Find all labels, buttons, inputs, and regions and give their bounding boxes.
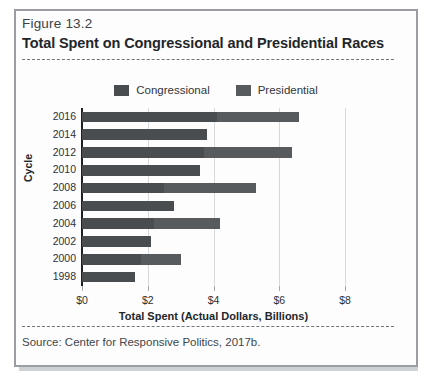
x-axis-tick-label: $4 (208, 294, 220, 306)
bar-row: 2012 (82, 144, 292, 162)
legend-swatch-presidential (236, 85, 251, 96)
x-axis-tick-label: $2 (142, 294, 154, 306)
gridline (214, 108, 215, 286)
y-axis-category-label: 2010 (53, 161, 76, 179)
x-axis-tick (82, 286, 83, 291)
bar-segment-presidential (164, 183, 256, 194)
gridline (345, 108, 346, 286)
legend-entry: Congressional (114, 84, 210, 96)
plot-area: Total Spent (Actual Dollars, Billions) $… (82, 108, 345, 286)
divider-bottom (22, 326, 394, 327)
x-axis-tick-label: $8 (339, 294, 351, 306)
bar-row: 2008 (82, 179, 256, 197)
y-axis-category-label: 2000 (53, 250, 76, 268)
y-axis-category-label: 2002 (53, 233, 76, 251)
legend-label: Presidential (258, 84, 318, 96)
bar-segment-congressional (82, 218, 154, 229)
x-axis-tick-label: $0 (76, 294, 88, 306)
bar-segment-congressional (82, 129, 207, 140)
y-axis-title: Cycle (22, 154, 34, 182)
figure-number: Figure 13.2 (22, 16, 93, 31)
bar-segment-congressional (82, 201, 174, 212)
bar-segment-presidential (141, 254, 180, 265)
legend-entry: Presidential (236, 84, 318, 96)
bar-row: 2014 (82, 126, 207, 144)
figure-source: Source: Center for Responsive Politics, … (22, 336, 260, 348)
legend-swatch-congressional (114, 85, 129, 96)
x-axis-tick (345, 286, 346, 291)
bar-segment-congressional (82, 272, 135, 283)
figure-title: Total Spent on Congressional and Preside… (22, 35, 384, 51)
x-axis-tick-label: $6 (273, 294, 285, 306)
bar-segment-presidential (154, 218, 220, 229)
figure-bottom-shadow (19, 367, 418, 371)
figure-container: Figure 13.2 Total Spent on Congressional… (0, 0, 432, 385)
bar-segment-congressional (82, 183, 164, 194)
y-axis-category-label: 2016 (53, 108, 76, 126)
x-axis-tick (279, 286, 280, 291)
bar-row: 2016 (82, 108, 299, 126)
x-axis-tick (214, 286, 215, 291)
bar-row: 1998 (82, 268, 135, 286)
y-axis-category-label: 2006 (53, 197, 76, 215)
bar-row: 2004 (82, 215, 220, 233)
bar-segment-presidential (217, 112, 299, 123)
chart-legend: CongressionalPresidential (0, 84, 432, 96)
x-axis-title: Total Spent (Actual Dollars, Billions) (82, 310, 345, 322)
bar-segment-congressional (82, 236, 151, 247)
x-axis-tick (148, 286, 149, 291)
divider-top (22, 59, 394, 60)
y-axis-category-label: 1998 (53, 268, 76, 286)
bar-segment-presidential (204, 147, 293, 158)
y-axis-category-label: 2014 (53, 126, 76, 144)
y-axis-category-label: 2004 (53, 215, 76, 233)
y-axis-category-label: 2012 (53, 144, 76, 162)
bar-row: 2010 (82, 161, 200, 179)
bar-row: 2006 (82, 197, 174, 215)
y-axis-category-label: 2008 (53, 179, 76, 197)
legend-label: Congressional (136, 84, 210, 96)
bar-row: 2002 (82, 233, 151, 251)
gridline (279, 108, 280, 286)
bar-row: 2000 (82, 250, 181, 268)
bar-segment-congressional (82, 165, 200, 176)
bar-segment-congressional (82, 254, 141, 265)
bar-segment-congressional (82, 112, 217, 123)
bar-segment-congressional (82, 147, 204, 158)
